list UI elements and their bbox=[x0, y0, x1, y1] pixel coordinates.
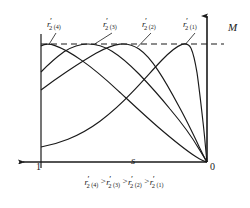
figure-caption: r′2(4)>r′2(3)>r′2(2)>r′2(1) bbox=[0, 177, 250, 187]
caption-operator-1: > bbox=[101, 176, 106, 186]
curve-label-r2-2: r′2(2) bbox=[142, 20, 158, 29]
caption-term-2-sub: 2 bbox=[108, 182, 111, 189]
leader-line-r2-1 bbox=[186, 33, 195, 44]
curve-label-r2-3: r′2(3) bbox=[103, 20, 119, 29]
caption-term-4-sub: 2 bbox=[152, 182, 155, 189]
curve-label-r2-1-sub: 2 bbox=[185, 24, 188, 31]
caption-term-1: r′2(4) bbox=[84, 177, 100, 187]
curve-label-r2-4-sub: 2 bbox=[49, 24, 52, 31]
leader-line-r2-4 bbox=[49, 33, 56, 44]
curve-r2-3 bbox=[41, 44, 207, 162]
caption-term-2: r′2(3) bbox=[106, 177, 122, 187]
caption-term-3-index: (2) bbox=[135, 182, 142, 188]
torque-slip-figure: r′2(4) r′2(3) r′2(2) r′2(1) M s 1 0 r′2(… bbox=[0, 0, 250, 208]
curve-label-r2-4: r′2(4) bbox=[47, 20, 63, 29]
leader-line-r2-2 bbox=[137, 33, 151, 48]
caption-operator-3: > bbox=[144, 176, 149, 186]
curve-r2-2 bbox=[41, 44, 207, 162]
caption-term-4-index: (1) bbox=[157, 182, 164, 188]
curve-label-r2-2-index: (2) bbox=[149, 24, 156, 30]
caption-term-1-index: (4) bbox=[91, 182, 98, 188]
x-axis-label: s bbox=[131, 155, 135, 166]
curve-label-r2-2-sub: 2 bbox=[144, 24, 147, 31]
caption-term-3-sub: 2 bbox=[130, 182, 133, 189]
curve-r2-1 bbox=[41, 44, 207, 162]
caption-term-2-index: (3) bbox=[113, 182, 120, 188]
curve-label-r2-1-index: (1) bbox=[190, 24, 197, 30]
curve-label-r2-1: r′2(1) bbox=[183, 20, 199, 29]
caption-term-1-sub: 2 bbox=[86, 182, 89, 189]
x-axis-tick-label-zero: 0 bbox=[210, 162, 215, 172]
curve-label-r2-3-sub: 2 bbox=[105, 24, 108, 31]
x-axis-tick-label-one: 1 bbox=[36, 162, 41, 172]
caption-operator-2: > bbox=[122, 176, 127, 186]
y-axis-label: M bbox=[228, 22, 237, 33]
curve-r2-4 bbox=[41, 44, 207, 162]
caption-term-3: r′2(2) bbox=[128, 177, 144, 187]
caption-term-4: r′2(1) bbox=[150, 177, 166, 187]
curve-label-r2-3-index: (3) bbox=[110, 24, 117, 30]
curve-label-r2-4-index: (4) bbox=[54, 24, 61, 30]
leader-line-r2-3 bbox=[95, 33, 112, 44]
